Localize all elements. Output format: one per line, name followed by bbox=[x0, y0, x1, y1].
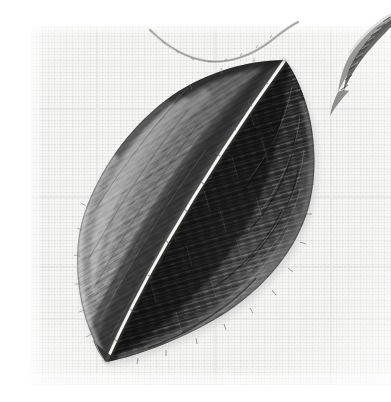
photo-haze bbox=[0, 0, 391, 402]
embroidery-photograph: Needle-painted leaf worked in long-and-s… bbox=[0, 0, 391, 402]
photograph-frame: Needle-painted leaf worked in long-and-s… bbox=[0, 0, 391, 402]
